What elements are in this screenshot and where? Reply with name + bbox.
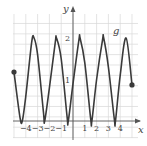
y-tick-label: 2 [65,34,70,43]
x-tick-label: 1 [82,124,87,133]
function-label: g [113,25,119,36]
x-axis-arrow-icon [135,119,141,124]
x-tick-label: −1 [55,124,67,133]
x-tick-label: −4 [20,124,32,133]
tick-labels: −4−3−2−1123412 [20,34,123,133]
x-tick-label: 2 [94,124,99,133]
x-axis-label: x [138,124,144,135]
endpoint-dot [11,69,16,74]
function-graph: −4−3−2−1123412 x y g [0,0,147,146]
endpoint-dot [129,82,134,87]
x-tick-label: −3 [32,124,44,133]
x-tick-label: 4 [118,124,123,133]
x-tick-label: −2 [44,124,56,133]
y-axis-arrow-icon [71,6,76,12]
y-axis-label: y [62,3,69,14]
y-tick-label: 1 [65,76,70,85]
axes [13,6,141,140]
x-tick-label: 3 [106,124,111,133]
